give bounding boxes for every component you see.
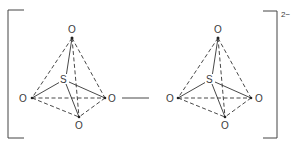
oxygen-label-left: O [19, 93, 27, 104]
right-bracket [263, 11, 277, 138]
oxygen-label-right: O [108, 93, 116, 104]
tetrahedron-right: S O O O O [166, 24, 263, 131]
oxygen-label-bottom: O [221, 120, 229, 131]
oxygen-label-bottom: O [75, 120, 83, 131]
sulfur-label: S [206, 74, 213, 85]
charge-label: 2− [281, 10, 290, 19]
oxygen-label-left: O [166, 93, 174, 104]
oxygen-label-right: O [255, 93, 263, 104]
oxygen-label-top: O [214, 24, 222, 35]
left-bracket [8, 10, 24, 138]
oxygen-label-top: O [68, 24, 76, 35]
disulfate-ion-diagram: 2− S O O O O [0, 0, 295, 147]
sulfur-label: S [60, 74, 67, 85]
tetrahedron-left: S O O O O [19, 24, 116, 131]
